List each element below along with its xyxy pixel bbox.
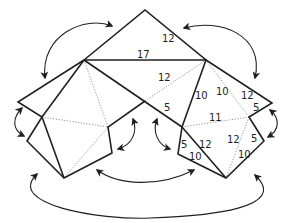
arrow-center-right [155, 119, 170, 149]
arrow-right-side [268, 110, 277, 137]
label-lower-mid-left-5: 5 [181, 139, 187, 150]
arrow-bottom-inner [97, 170, 194, 182]
label-lower-right-12: 12 [227, 134, 240, 145]
label-lower-right-5: 5 [251, 133, 257, 144]
arrow-left-side [15, 108, 24, 136]
label-right-middle: 11 [209, 112, 222, 123]
label-right-tip: 5 [253, 102, 259, 113]
arrow-center-left [118, 119, 135, 149]
polyhedron-net-diagram: 12 17 12 5 10 10 12 5 11 5 12 10 12 5 10 [0, 0, 292, 223]
arrow-top-left [45, 23, 112, 78]
label-top-base: 17 [137, 49, 150, 60]
label-right-upper-b: 12 [241, 90, 254, 101]
outline [18, 10, 272, 178]
edge-labels: 12 17 12 5 10 10 12 5 11 5 12 10 12 5 10 [137, 33, 259, 162]
label-lower-mid-left-10: 10 [189, 151, 202, 162]
label-lower-right-10: 10 [238, 149, 251, 160]
label-center-short: 5 [164, 102, 170, 113]
label-center-right-edge: 10 [195, 90, 208, 101]
label-right-upper-a: 10 [216, 86, 229, 97]
label-top-edge: 12 [162, 33, 175, 44]
label-center-upper: 12 [158, 72, 171, 83]
label-lower-mid-left-12: 12 [199, 139, 212, 150]
arrow-bottom-outer [31, 174, 264, 218]
